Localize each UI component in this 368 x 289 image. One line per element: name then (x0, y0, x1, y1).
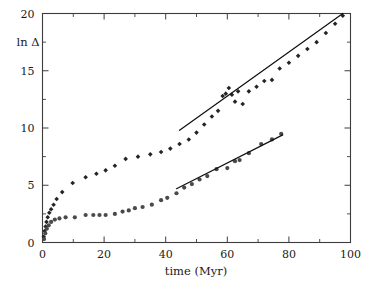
y-tick-label: 20 (21, 8, 35, 21)
y-tick-label: 15 (21, 65, 35, 78)
y-tick-label: 10 (21, 122, 35, 135)
y-tick-label: 0 (28, 237, 35, 250)
data-point-circle (47, 223, 51, 227)
data-point-circle (64, 215, 68, 219)
x-tick-label: 0 (39, 248, 46, 261)
y-axis-title: ln Δ (16, 35, 39, 49)
data-point-circle (84, 213, 88, 217)
y-tick-label: 5 (28, 179, 35, 192)
data-point-circle (97, 213, 101, 217)
data-point-circle (53, 218, 57, 222)
x-tick-label: 60 (220, 248, 234, 261)
data-point-circle (113, 212, 117, 216)
x-tick-label: 20 (97, 248, 111, 261)
scatter-plot: 020406080100 05101520 time (Myr) ln Δ (0, 0, 368, 289)
x-axis-title: time (Myr) (165, 264, 227, 278)
data-point-circle (190, 182, 194, 186)
data-point-circle (91, 213, 95, 217)
data-point-circle (174, 191, 178, 195)
data-point-circle (225, 166, 229, 170)
data-point-circle (104, 213, 108, 217)
data-point-circle (120, 209, 124, 213)
data-point-circle (73, 215, 77, 219)
data-point-circle (43, 231, 47, 235)
figure-container: 020406080100 05101520 time (Myr) ln Δ (0, 0, 368, 289)
plot-background (0, 0, 368, 289)
data-point-circle (150, 203, 154, 207)
data-point-circle (49, 220, 53, 224)
data-point-circle (159, 198, 163, 202)
data-point-circle (205, 174, 209, 178)
data-point-circle (127, 208, 131, 212)
data-point-circle (238, 158, 242, 162)
x-tick-label: 40 (159, 248, 173, 261)
x-tick-label: 80 (282, 248, 296, 261)
x-tick-label: 100 (340, 248, 361, 261)
data-point-circle (141, 205, 145, 209)
data-point-circle (133, 206, 137, 210)
data-point-circle (165, 196, 169, 200)
data-point-circle (42, 237, 46, 241)
data-point-circle (57, 216, 61, 220)
